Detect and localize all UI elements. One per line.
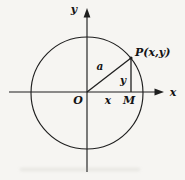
y-axis-arrowhead-icon <box>84 8 91 18</box>
point-p-dot <box>129 56 132 59</box>
ordinate-label: y <box>119 74 127 86</box>
foot-m-label: M <box>122 94 136 107</box>
abscissa-label: x <box>104 94 112 106</box>
point-p-label: P(x,y) <box>134 46 170 59</box>
radius-label: a <box>97 60 104 72</box>
x-axis-label: x <box>169 86 177 99</box>
origin-label: O <box>73 94 83 107</box>
x-axis-arrowhead-icon <box>155 89 165 96</box>
scan-smudge <box>20 168 140 171</box>
y-axis-label: y <box>70 3 79 16</box>
unit-circle-diagram: y x O P(x,y) a y x M <box>0 0 185 180</box>
circle-coordinate-figure: y x O P(x,y) a y x M <box>0 0 185 180</box>
